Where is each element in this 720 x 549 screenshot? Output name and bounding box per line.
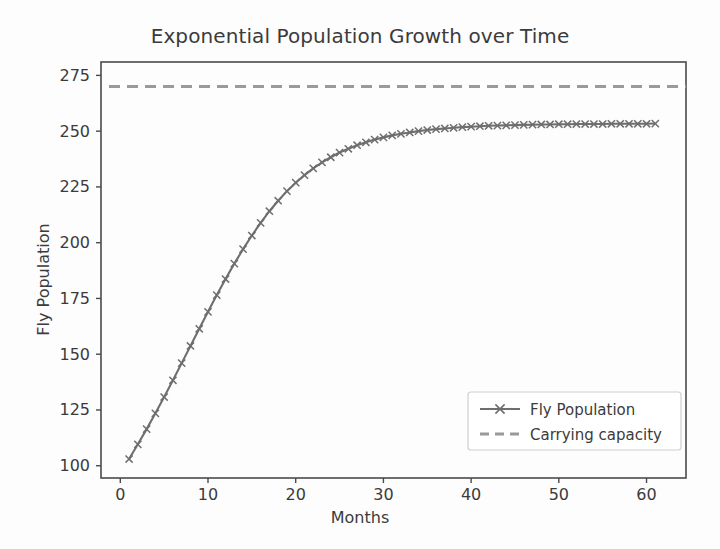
plot-area: 100125150175200225250275 0102030405060 F…: [0, 0, 720, 549]
data-point-marker: [125, 455, 132, 462]
x-tick-label: 10: [198, 485, 218, 504]
data-point-marker: [196, 325, 203, 332]
legend-label: Carrying capacity: [530, 426, 662, 444]
data-point-marker: [204, 308, 211, 315]
x-tick-label: 0: [115, 485, 125, 504]
data-point-marker: [257, 219, 264, 226]
x-tick-label: 20: [286, 485, 306, 504]
x-tick-label: 50: [549, 485, 569, 504]
y-tick-group: 100125150175200225250275: [59, 66, 101, 475]
y-tick-label: 100: [59, 456, 90, 475]
data-point-marker: [301, 171, 308, 178]
data-point-marker: [143, 426, 150, 433]
data-point-marker: [178, 360, 185, 367]
y-tick-label: 275: [59, 66, 90, 85]
data-point-marker: [266, 208, 273, 215]
data-point-marker: [283, 188, 290, 195]
chart-legend[interactable]: Fly PopulationCarrying capacity: [468, 392, 681, 450]
x-tick-label: 30: [373, 485, 393, 504]
data-point-marker: [134, 441, 141, 448]
data-point-marker: [248, 232, 255, 239]
data-point-marker: [152, 410, 159, 417]
data-point-marker: [161, 393, 168, 400]
y-tick-label: 125: [59, 400, 90, 419]
y-tick-label: 250: [59, 122, 90, 141]
data-point-marker: [275, 197, 282, 204]
data-point-marker: [310, 165, 317, 172]
data-point-marker: [222, 275, 229, 282]
data-point-marker: [292, 179, 299, 186]
data-point-marker: [239, 246, 246, 253]
x-tick-label: 60: [636, 485, 656, 504]
data-point-marker: [318, 159, 325, 166]
y-tick-label: 150: [59, 345, 90, 364]
y-tick-label: 200: [59, 233, 90, 252]
data-point-marker: [231, 260, 238, 267]
data-point-marker: [187, 342, 194, 349]
x-tick-group: 0102030405060: [115, 478, 657, 504]
data-point-marker: [327, 154, 334, 161]
chart-figure: Exponential Population Growth over Time …: [0, 0, 720, 549]
y-tick-label: 175: [59, 289, 90, 308]
data-point-marker: [169, 377, 176, 384]
x-tick-label: 40: [461, 485, 481, 504]
legend-label: Fly Population: [530, 401, 635, 419]
y-tick-label: 225: [59, 177, 90, 196]
data-point-marker: [213, 291, 220, 298]
